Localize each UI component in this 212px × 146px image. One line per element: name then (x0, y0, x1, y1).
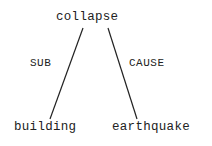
root-node: collapse (56, 10, 118, 24)
child-node-building: building (14, 120, 76, 134)
relation-label-cause: CAUSE (129, 57, 165, 70)
edge-cause (108, 28, 137, 119)
child-node-earthquake: earthquake (112, 120, 190, 134)
edge-sub (50, 28, 83, 119)
relation-label-sub: SUB (30, 57, 51, 70)
